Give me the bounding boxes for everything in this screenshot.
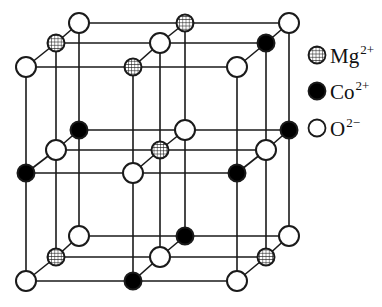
cobalt-atom xyxy=(18,165,35,182)
oxygen-atom xyxy=(256,140,276,160)
cobalt-atom xyxy=(125,273,142,290)
cobalt-atom xyxy=(281,122,298,139)
legend: Mg2+ Co2+ O2− xyxy=(306,0,382,307)
oxygen-atom xyxy=(175,120,195,140)
magnesium-atom xyxy=(177,15,194,32)
legend-label-co: Co2+ xyxy=(330,79,369,103)
oxygen-atom xyxy=(69,226,89,246)
magnesium-atom xyxy=(258,249,275,266)
oxygen-atom xyxy=(16,57,36,77)
oxygen-atom xyxy=(279,226,299,246)
legend-item-o: O2− xyxy=(306,116,360,140)
hatched-circle-icon xyxy=(306,44,328,66)
magnesium-atom xyxy=(152,142,169,159)
legend-item-mg: Mg2+ xyxy=(306,43,374,67)
oxygen-atom xyxy=(279,13,299,33)
oxygen-atom xyxy=(150,33,170,53)
cobalt-atom xyxy=(71,122,88,139)
cobalt-atom xyxy=(177,228,194,245)
legend-item-co: Co2+ xyxy=(306,79,369,103)
cobalt-atom xyxy=(258,35,275,52)
magnesium-atom xyxy=(48,35,65,52)
open-circle-icon xyxy=(306,117,328,139)
oxygen-atom xyxy=(123,163,143,183)
lattice-atoms xyxy=(16,13,299,291)
oxygen-atom xyxy=(46,140,66,160)
cobalt-atom xyxy=(229,165,246,182)
oxygen-atom xyxy=(69,13,89,33)
magnesium-atom xyxy=(125,59,142,76)
crystal-lattice xyxy=(0,0,306,307)
oxygen-atom xyxy=(16,271,36,291)
magnesium-atom xyxy=(48,249,65,266)
oxygen-atom xyxy=(227,271,247,291)
filled-circle-icon xyxy=(306,80,328,102)
oxygen-atom xyxy=(227,57,247,77)
legend-label-mg: Mg2+ xyxy=(330,43,374,67)
legend-label-o: O2− xyxy=(330,116,360,140)
oxygen-atom xyxy=(150,247,170,267)
